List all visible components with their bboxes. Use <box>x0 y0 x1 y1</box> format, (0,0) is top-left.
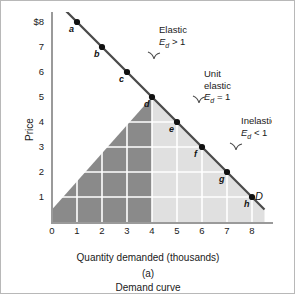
point-label-c: c <box>119 74 124 84</box>
point-label-d: d <box>144 99 150 109</box>
inelastic-rel: < 1 <box>254 127 267 138</box>
annotation-unit-elastic: Unit elastic Ed = 1 <box>204 68 231 106</box>
point-c <box>124 69 130 75</box>
y-tick-1: 1 <box>22 192 44 202</box>
unit-rel: = 1 <box>217 91 230 102</box>
x-tick-3: 3 <box>118 226 136 236</box>
inelastic-sub: d <box>247 132 251 139</box>
point-label-e: e <box>169 124 174 134</box>
x-tick-4: 4 <box>143 226 161 236</box>
point-label-h: h <box>244 199 250 209</box>
x-tick-7: 7 <box>218 226 236 236</box>
point-e <box>174 119 180 125</box>
x-tick-2: 2 <box>93 226 111 236</box>
annotation-elastic: Elastic Ed > 1 <box>159 24 187 51</box>
bracket-elastic <box>148 52 160 59</box>
plot-area: a b c d e f g h Elastic Ed > 1 Unit elas… <box>52 12 272 222</box>
point-a <box>74 19 80 25</box>
panel-caption: Demand curve <box>0 282 296 293</box>
annotation-inelastic-formula: Ed < 1 <box>241 127 272 142</box>
y-axis-title: Price <box>24 100 35 160</box>
x-tick-8: 8 <box>243 226 261 236</box>
annotation-elastic-formula: Ed > 1 <box>159 36 187 51</box>
annotation-inelastic-title: Inelastic <box>241 115 272 127</box>
y-tick-7: 7 <box>22 42 44 52</box>
x-axis-title: Quantity demanded (thousands) <box>0 252 296 263</box>
point-label-b: b <box>94 49 100 59</box>
elastic-sub: d <box>165 41 169 48</box>
annotation-unit-title2: elastic <box>204 80 231 92</box>
annotation-unit-formula: Ed = 1 <box>204 91 231 106</box>
annotation-inelastic: Inelastic Ed < 1 <box>241 115 272 142</box>
elastic-rel: > 1 <box>172 36 185 47</box>
panel-letter: (a) <box>0 268 296 279</box>
unit-sub: d <box>210 97 214 104</box>
y-tick-2: 2 <box>22 167 44 177</box>
x-tick-5: 5 <box>168 226 186 236</box>
x-tick-6: 6 <box>193 226 211 236</box>
y-axis-line <box>51 12 53 224</box>
demand-curve-label: D <box>255 190 263 202</box>
x-tick-0: 0 <box>43 226 61 236</box>
figure-demand-curve: a b c d e f g h Elastic Ed > 1 Unit elas… <box>0 0 296 295</box>
annotation-elastic-title: Elastic <box>159 24 187 36</box>
x-axis-line <box>51 222 273 224</box>
x-tick-1: 1 <box>68 226 86 236</box>
annotation-unit-title1: Unit <box>204 68 231 80</box>
y-tick-8: $8 <box>22 17 44 27</box>
point-f <box>199 144 205 150</box>
point-label-g: g <box>219 174 225 184</box>
point-label-a: a <box>69 24 74 34</box>
y-tick-6: 6 <box>22 67 44 77</box>
point-label-f: f <box>194 149 197 159</box>
